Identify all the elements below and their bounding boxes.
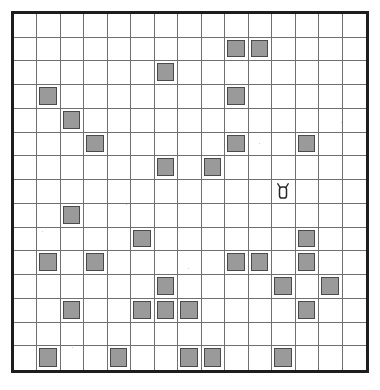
grid-cell[interactable]: [178, 133, 201, 157]
grid-cell-marked[interactable]: [108, 346, 131, 370]
grid-cell[interactable]: [319, 323, 342, 347]
grid-cell[interactable]: [84, 204, 107, 228]
grid-cell[interactable]: [84, 299, 107, 323]
grid-cell[interactable]: [272, 156, 295, 180]
grid-cell[interactable]: [319, 204, 342, 228]
grid-cell[interactable]: [84, 38, 107, 62]
grid-cell[interactable]: [249, 346, 272, 370]
grid-cell[interactable]: [225, 323, 248, 347]
grid-cell[interactable]: [225, 228, 248, 252]
grid-cell[interactable]: [155, 251, 178, 275]
grid-cell[interactable]: [272, 85, 295, 109]
grid-cell-marked[interactable]: [178, 346, 201, 370]
grid-cell[interactable]: [249, 156, 272, 180]
grid-cell-marked[interactable]: [155, 275, 178, 299]
grid-cell[interactable]: [37, 156, 60, 180]
grid-cell[interactable]: [296, 323, 319, 347]
grid-cell-marked[interactable]: [225, 38, 248, 62]
grid-cell[interactable]: [61, 38, 84, 62]
grid-cell-marked[interactable]: [37, 346, 60, 370]
puzzle-grid[interactable]: [14, 14, 366, 370]
grid-cell[interactable]: [319, 133, 342, 157]
grid-cell[interactable]: [225, 299, 248, 323]
grid-cell[interactable]: [202, 180, 225, 204]
grid-cell[interactable]: [14, 38, 37, 62]
grid-cell[interactable]: [343, 156, 366, 180]
grid-cell[interactable]: [37, 299, 60, 323]
grid-cell[interactable]: [14, 228, 37, 252]
grid-cell[interactable]: [131, 38, 154, 62]
grid-cell[interactable]: [84, 228, 107, 252]
grid-cell-marked[interactable]: [225, 85, 248, 109]
grid-cell[interactable]: [14, 85, 37, 109]
grid-cell[interactable]: [249, 180, 272, 204]
grid-cell[interactable]: [249, 109, 272, 133]
grid-cell[interactable]: [131, 251, 154, 275]
grid-cell[interactable]: [14, 14, 37, 38]
grid-cell-marked[interactable]: [272, 275, 295, 299]
grid-cell[interactable]: [296, 156, 319, 180]
grid-cell[interactable]: [155, 228, 178, 252]
grid-cell[interactable]: [249, 133, 272, 157]
grid-cell-marked[interactable]: [155, 156, 178, 180]
grid-cell-marked[interactable]: [225, 251, 248, 275]
grid-cell[interactable]: [343, 251, 366, 275]
grid-cell[interactable]: [108, 299, 131, 323]
grid-cell[interactable]: [272, 109, 295, 133]
grid-cell[interactable]: [249, 61, 272, 85]
grid-cell[interactable]: [61, 61, 84, 85]
grid-cell[interactable]: [37, 61, 60, 85]
grid-cell[interactable]: [84, 61, 107, 85]
grid-cell-marked[interactable]: [296, 133, 319, 157]
grid-cell-marked[interactable]: [178, 299, 201, 323]
grid-cell[interactable]: [296, 85, 319, 109]
grid-cell[interactable]: [84, 156, 107, 180]
grid-cell[interactable]: [202, 204, 225, 228]
grid-cell[interactable]: [61, 85, 84, 109]
grid-cell-marked[interactable]: [37, 85, 60, 109]
grid-cell[interactable]: [319, 85, 342, 109]
grid-cell-marked[interactable]: [296, 299, 319, 323]
grid-cell[interactable]: [108, 61, 131, 85]
grid-cell[interactable]: [272, 38, 295, 62]
grid-cell[interactable]: [61, 251, 84, 275]
grid-cell[interactable]: [249, 14, 272, 38]
grid-cell[interactable]: [225, 14, 248, 38]
grid-cell[interactable]: [202, 133, 225, 157]
grid-cell-marked[interactable]: [155, 299, 178, 323]
grid-cell[interactable]: [296, 38, 319, 62]
grid-cell[interactable]: [272, 299, 295, 323]
grid-cell[interactable]: [202, 109, 225, 133]
grid-cell[interactable]: [202, 275, 225, 299]
grid-cell[interactable]: [225, 204, 248, 228]
grid-cell[interactable]: [108, 251, 131, 275]
grid-cell[interactable]: [178, 180, 201, 204]
grid-cell[interactable]: [84, 14, 107, 38]
grid-cell[interactable]: [319, 299, 342, 323]
grid-cell[interactable]: [319, 109, 342, 133]
grid-cell[interactable]: [343, 38, 366, 62]
grid-cell[interactable]: [249, 323, 272, 347]
grid-cell[interactable]: [178, 38, 201, 62]
grid-cell[interactable]: [249, 204, 272, 228]
grid-cell[interactable]: [178, 109, 201, 133]
grid-cell[interactable]: [178, 61, 201, 85]
grid-cell[interactable]: [108, 323, 131, 347]
grid-cell-marked[interactable]: [61, 204, 84, 228]
grid-cell[interactable]: [37, 109, 60, 133]
grid-cell[interactable]: [225, 180, 248, 204]
grid-cell[interactable]: [155, 109, 178, 133]
grid-cell[interactable]: [202, 14, 225, 38]
grid-cell[interactable]: [319, 156, 342, 180]
grid-cell-marked[interactable]: [296, 251, 319, 275]
grid-cell[interactable]: [108, 228, 131, 252]
grid-cell[interactable]: [343, 61, 366, 85]
grid-cell-marked[interactable]: [225, 133, 248, 157]
grid-cell[interactable]: [61, 228, 84, 252]
grid-cell[interactable]: [14, 299, 37, 323]
grid-cell[interactable]: [155, 346, 178, 370]
grid-cell-marked[interactable]: [37, 251, 60, 275]
grid-cell[interactable]: [343, 133, 366, 157]
grid-cell[interactable]: [131, 61, 154, 85]
grid-cell[interactable]: [343, 204, 366, 228]
